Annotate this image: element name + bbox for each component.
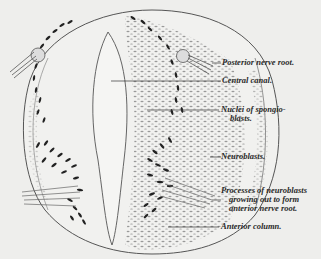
label-central-canal: Central canal. xyxy=(222,76,272,85)
label-processes-line3: anterior nerve root. xyxy=(229,204,297,213)
label-neuroblasts: Neuroblasts. xyxy=(221,152,265,161)
label-posterior-nerve-root: Posterior nerve root. xyxy=(222,58,294,67)
label-nuclei-spongioblasts-line2: blasts. xyxy=(230,114,252,123)
label-anterior-column: Anterior column. xyxy=(221,222,281,231)
